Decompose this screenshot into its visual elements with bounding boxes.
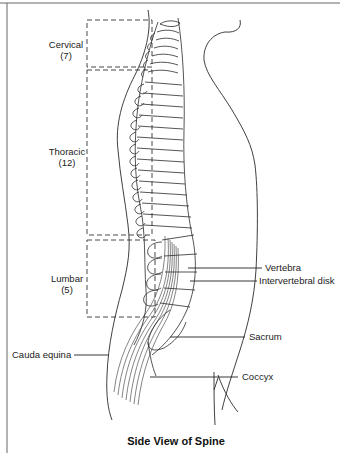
spine-diagram: Cervical (7) Thoracic (12) Lumbar (5) Ve… (0, 0, 343, 453)
cervical-name: Cervical (49, 39, 83, 50)
spinal-column (130, 18, 197, 376)
thoracic-label: Thoracic (12) (49, 146, 85, 168)
thoracic-bracket (87, 70, 152, 235)
cervical-label: Cervical (7) (49, 39, 83, 61)
vertebra-label: Vertebra (265, 262, 301, 273)
intervertebral-disk-label: Intervertebral disk (259, 275, 335, 286)
lumbar-name: Lumbar (51, 273, 83, 284)
thoracic-name: Thoracic (49, 146, 85, 157)
cauda-equina-nerves (114, 236, 178, 405)
coccyx-label: Coccyx (242, 371, 273, 382)
cervical-bracket (87, 20, 152, 67)
lumbar-label: Lumbar (5) (51, 273, 83, 295)
cervical-count: (7) (49, 50, 83, 61)
thoracic-count: (12) (49, 157, 85, 168)
callout-lines (74, 268, 262, 377)
figure-caption: Side View of Spine (127, 435, 225, 447)
cauda-equina-label: Cauda equina (12, 349, 71, 360)
lumbar-count: (5) (51, 284, 83, 295)
frame-border (0, 3, 340, 453)
spine-illustration (0, 0, 343, 453)
sacrum-label: Sacrum (249, 331, 282, 342)
